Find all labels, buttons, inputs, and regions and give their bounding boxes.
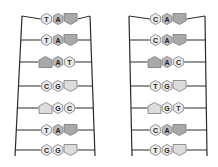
base-C-hexagon: C xyxy=(65,102,75,113)
dna-ladders-diagram: TATAATCGGCTACGCACAACTGGTCATG xyxy=(0,0,218,167)
base-letter: G xyxy=(164,147,170,154)
base-letter: A xyxy=(55,59,60,66)
base-T-hexagon: T xyxy=(42,34,52,45)
base-pair-row: TA xyxy=(16,124,94,135)
base-letter: C xyxy=(176,59,181,66)
base-letter: G xyxy=(55,147,61,154)
base-letter: G xyxy=(164,83,170,90)
base-pair-row: CA xyxy=(129,13,205,24)
base-A-hexagon: A xyxy=(53,56,63,67)
rung-left xyxy=(22,16,41,19)
base-letter: A xyxy=(55,37,60,44)
rung-right xyxy=(78,16,91,19)
ladder-left: TATAATCGGCTACG xyxy=(15,13,95,156)
base-A-hexagon: A xyxy=(53,34,63,45)
sugar-pentagon xyxy=(173,14,186,25)
sugar-pentagon xyxy=(173,81,186,92)
base-pair-row: AT xyxy=(20,56,92,67)
rung-right xyxy=(187,16,206,19)
base-letter: A xyxy=(164,37,169,44)
sugar-pentagon xyxy=(64,14,77,25)
base-T-hexagon: T xyxy=(174,102,184,113)
base-letter: T xyxy=(44,16,49,23)
base-pair-row: CG xyxy=(15,144,94,155)
base-T-hexagon: T xyxy=(151,80,161,91)
base-letter: C xyxy=(44,83,49,90)
base-letter: G xyxy=(164,105,170,112)
base-T-hexagon: T xyxy=(65,56,75,67)
base-letter: A xyxy=(164,127,169,134)
base-T-hexagon: T xyxy=(42,124,52,135)
base-letter: C xyxy=(67,105,72,112)
base-pair-row: GC xyxy=(17,102,93,113)
sugar-pentagon xyxy=(39,57,52,68)
base-G-hexagon: G xyxy=(53,80,63,91)
base-pair-row: AC xyxy=(130,56,206,67)
base-letter: G xyxy=(55,105,61,112)
base-letter: A xyxy=(164,59,169,66)
base-pair-row: CG xyxy=(19,80,93,91)
base-pair-row: CA xyxy=(131,124,206,135)
diagram-canvas: TATAATCGGCTACGCACAACTGGTCATG xyxy=(0,0,218,167)
base-A-hexagon: A xyxy=(162,34,172,45)
base-C-hexagon: C xyxy=(42,80,52,91)
base-C-hexagon: C xyxy=(174,56,184,67)
base-pair-row: TG xyxy=(131,80,207,91)
base-G-hexagon: G xyxy=(53,102,63,113)
base-letter: T xyxy=(44,37,49,44)
base-letter: T xyxy=(176,105,181,112)
base-A-hexagon: A xyxy=(53,13,63,24)
sugar-pentagon xyxy=(39,103,52,114)
base-letter: C xyxy=(153,127,158,134)
base-C-hexagon: C xyxy=(151,124,161,135)
base-pair-row: TA xyxy=(21,34,91,45)
base-T-hexagon: T xyxy=(151,144,161,155)
base-letter: G xyxy=(55,83,61,90)
sugar-pentagon xyxy=(64,35,77,46)
base-G-hexagon: G xyxy=(53,144,63,155)
sugar-pentagon xyxy=(173,145,186,156)
base-C-hexagon: C xyxy=(151,34,161,45)
sugar-pentagon xyxy=(64,125,77,136)
base-A-hexagon: A xyxy=(162,124,172,135)
sugar-pentagon xyxy=(148,57,161,68)
base-G-hexagon: G xyxy=(162,144,172,155)
sugar-pentagon xyxy=(64,145,77,156)
base-letter: C xyxy=(153,37,158,44)
base-pair-row: GT xyxy=(131,102,206,113)
base-C-hexagon: C xyxy=(151,13,161,24)
base-letter: T xyxy=(153,147,158,154)
base-A-hexagon: A xyxy=(162,13,172,24)
sugar-pentagon xyxy=(64,81,77,92)
sugar-pentagon xyxy=(148,103,161,114)
base-letter: A xyxy=(55,16,60,23)
base-G-hexagon: G xyxy=(162,80,172,91)
sugar-pentagon xyxy=(173,125,186,136)
base-letter: A xyxy=(55,127,60,134)
base-pair-row: CA xyxy=(130,34,206,45)
base-C-hexagon: C xyxy=(42,144,52,155)
base-pair-row: TA xyxy=(22,13,90,24)
sugar-pentagon xyxy=(173,35,186,46)
base-letter: T xyxy=(153,83,158,90)
base-letter: T xyxy=(67,59,72,66)
base-G-hexagon: G xyxy=(162,102,172,113)
base-letter: C xyxy=(153,16,158,23)
ladder-right: CACAACTGGTCATG xyxy=(129,13,207,156)
base-letter: A xyxy=(164,16,169,23)
base-A-hexagon: A xyxy=(53,124,63,135)
rung-left xyxy=(129,16,150,19)
base-A-hexagon: A xyxy=(162,56,172,67)
base-pair-row: TG xyxy=(132,144,207,155)
base-letter: C xyxy=(44,147,49,154)
base-letter: T xyxy=(44,127,49,134)
base-T-hexagon: T xyxy=(42,13,52,24)
